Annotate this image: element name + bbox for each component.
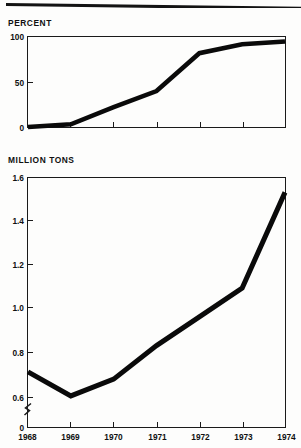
percent-chart-series-line xyxy=(0,0,301,140)
million-tons-chart-series-line xyxy=(0,150,301,448)
